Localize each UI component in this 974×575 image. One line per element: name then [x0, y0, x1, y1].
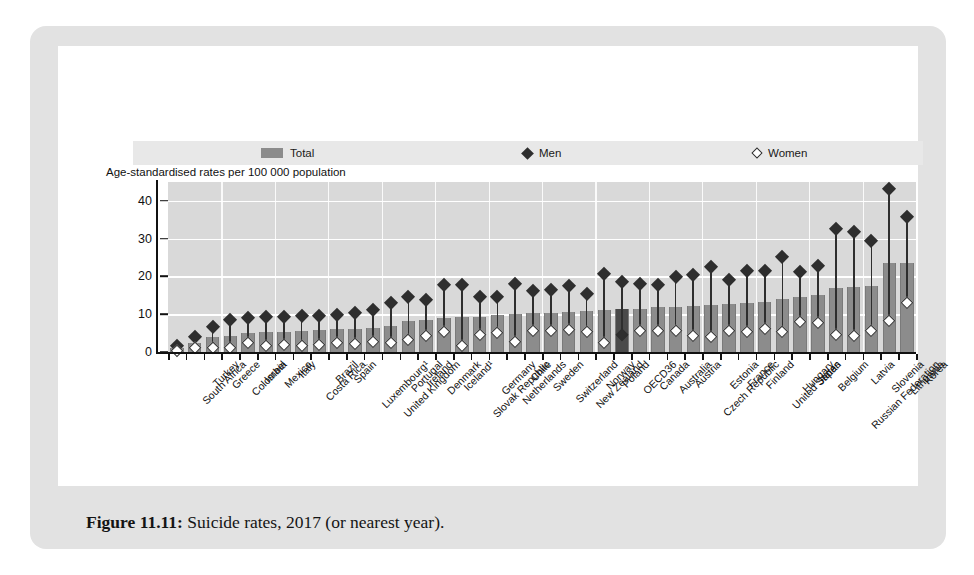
marker-men — [669, 270, 682, 283]
marker-men — [491, 289, 504, 302]
x-axis-label: Korea — [921, 358, 949, 386]
marker-men — [651, 277, 664, 290]
gridline-vertical — [809, 182, 810, 352]
marker-men — [420, 292, 433, 305]
range-stem — [692, 275, 694, 335]
gridline-vertical — [542, 182, 543, 352]
marker-men — [758, 264, 771, 277]
range-stem — [888, 189, 890, 321]
figure-number: Figure 11.11: — [86, 512, 183, 532]
y-axis-tick-label: 40 — [138, 194, 152, 208]
chart-legend: Total Men Women — [133, 141, 923, 165]
range-stem — [710, 267, 712, 337]
y-axis-tick-mark — [160, 313, 168, 315]
range-stem — [799, 271, 801, 321]
gridline-vertical — [275, 182, 276, 352]
range-stem — [853, 232, 855, 336]
filled-diamond-icon — [521, 147, 534, 160]
legend-label-women: Women — [768, 147, 807, 159]
legend-item-men[interactable]: Men — [523, 144, 561, 162]
marker-men — [900, 209, 913, 222]
legend-item-women[interactable]: Women — [753, 144, 807, 162]
y-axis-tick-mark — [160, 238, 168, 240]
range-stem — [514, 283, 516, 341]
open-diamond-icon — [751, 147, 762, 158]
marker-men — [206, 320, 219, 333]
range-stem — [461, 285, 463, 345]
range-stem — [835, 228, 837, 335]
range-stem — [621, 282, 623, 335]
marker-men — [455, 278, 468, 291]
marker-men — [526, 283, 539, 296]
marker-men — [687, 268, 700, 281]
marker-men — [241, 311, 254, 324]
legend-item-total[interactable]: Total — [261, 144, 314, 162]
marker-men — [277, 310, 290, 323]
marker-men — [384, 295, 397, 308]
x-axis-line — [156, 352, 916, 354]
gridline-vertical — [702, 182, 703, 352]
figure-page: Total Men Women Age-standardised rates p… — [0, 0, 974, 575]
marker-men — [562, 279, 575, 292]
marker-men — [704, 260, 717, 273]
range-stem — [906, 216, 908, 303]
plot-wrapper: 010203040 — [106, 182, 918, 382]
gridline-vertical — [649, 182, 650, 352]
legend-label-total: Total — [290, 147, 314, 159]
marker-men — [330, 308, 343, 321]
y-axis-tick-mark — [160, 276, 168, 278]
chart-panel: Total Men Women Age-standardised rates p… — [58, 46, 918, 486]
range-stem — [871, 241, 873, 331]
marker-men — [811, 259, 824, 272]
legend-label-men: Men — [539, 147, 561, 159]
marker-men — [580, 286, 593, 299]
marker-men — [509, 277, 522, 290]
range-stem — [782, 256, 784, 332]
gridline-vertical — [595, 182, 596, 352]
marker-men — [722, 273, 735, 286]
marker-men — [295, 309, 308, 322]
axis-unit-note: Age-standardised rates per 100 000 popul… — [106, 166, 346, 178]
marker-men — [437, 278, 450, 291]
y-axis-tick-label: 20 — [138, 269, 152, 283]
range-stem — [817, 266, 819, 323]
gridline-vertical — [328, 182, 329, 352]
figure-caption-text: Suicide rates, 2017 (or nearest year). — [183, 512, 444, 532]
marker-men — [402, 290, 415, 303]
range-stem — [764, 270, 766, 328]
gridline-vertical — [435, 182, 436, 352]
y-axis-tick-label: 10 — [138, 307, 152, 321]
y-axis-tick-label: 0 — [145, 345, 152, 359]
y-axis: 010203040 — [106, 182, 168, 352]
gridline-vertical — [756, 182, 757, 352]
marker-men — [598, 267, 611, 280]
range-stem — [746, 270, 748, 331]
gridline-vertical — [382, 182, 383, 352]
marker-men — [776, 249, 789, 262]
x-axis-labels: South AfricaTurkeyGreeceColombiaIsraelMe… — [168, 358, 928, 468]
gridline-vertical — [863, 182, 864, 352]
marker-men — [313, 309, 326, 322]
marker-men — [883, 182, 896, 195]
figure-card: Total Men Women Age-standardised rates p… — [30, 26, 946, 549]
marker-men — [740, 264, 753, 277]
marker-men — [847, 225, 860, 238]
gridline-vertical — [489, 182, 490, 352]
gridline-vertical — [221, 182, 222, 352]
marker-men — [544, 283, 557, 296]
marker-men — [259, 310, 272, 323]
marker-men — [865, 234, 878, 247]
bar-swatch-icon — [261, 148, 283, 158]
range-stem — [675, 276, 677, 330]
marker-men — [348, 306, 361, 319]
marker-men — [473, 290, 486, 303]
y-axis-tick-label: 30 — [138, 232, 152, 246]
marker-men — [829, 221, 842, 234]
figure-caption: Figure 11.11: Suicide rates, 2017 (or ne… — [86, 512, 444, 533]
marker-men — [633, 277, 646, 290]
y-axis-tick-mark — [160, 200, 168, 202]
y-axis-line — [156, 180, 158, 352]
plot-area — [168, 182, 916, 352]
range-stem — [603, 273, 605, 343]
